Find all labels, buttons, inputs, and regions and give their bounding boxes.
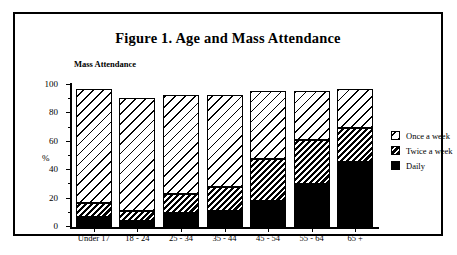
y-axis-minor-tick xyxy=(68,155,72,156)
x-axis-tick xyxy=(268,227,269,232)
bar-segment[interactable] xyxy=(337,162,373,227)
legend-item-label: Once a week xyxy=(406,131,450,141)
legend-item-label: Daily xyxy=(406,161,425,171)
y-axis-tick: 20 xyxy=(66,198,72,199)
bar-segment[interactable] xyxy=(250,91,286,159)
y-axis-tick-label: 40 xyxy=(49,164,58,174)
x-axis-tick-label: 25 - 34 xyxy=(169,233,193,243)
y-axis-tick-label: 80 xyxy=(49,107,58,117)
y-axis-minor-tick xyxy=(68,127,72,128)
bar-segment[interactable] xyxy=(250,159,286,202)
x-axis-tick xyxy=(137,227,138,232)
bar-segment[interactable] xyxy=(119,98,155,212)
bar-segment[interactable] xyxy=(250,201,286,227)
bar-segment[interactable] xyxy=(163,213,199,227)
bar-segment[interactable] xyxy=(294,91,330,141)
plot-subtitle: Mass Attendance xyxy=(74,59,136,69)
chart-legend: Once a weekTwice a weekDaily xyxy=(391,128,453,173)
y-axis-tick: 80 xyxy=(66,112,72,113)
once-a-week-swatch xyxy=(391,131,400,140)
bar-segment[interactable] xyxy=(76,217,112,227)
x-axis-tick-label: 55 - 64 xyxy=(300,233,324,243)
bar-segment[interactable] xyxy=(337,89,373,127)
y-axis-tick: 0 xyxy=(66,226,72,227)
y-axis-tick-label: 60 xyxy=(49,136,58,146)
y-axis-minor-tick xyxy=(68,98,72,99)
bar-segment[interactable] xyxy=(76,89,112,203)
page-title: Figure 1. Age and Mass Attendance xyxy=(15,30,441,47)
legend-item[interactable]: Twice a week xyxy=(391,143,453,158)
y-axis-tick-label: 100 xyxy=(45,79,59,89)
bar-segment[interactable] xyxy=(163,95,199,194)
y-axis-tick-label: 0 xyxy=(54,221,59,231)
bar-group[interactable] xyxy=(119,85,155,227)
x-axis-tick-label: Under 17 xyxy=(78,233,110,243)
bar-segment[interactable] xyxy=(337,128,373,162)
legend-item[interactable]: Daily xyxy=(391,158,453,173)
x-axis-tick xyxy=(94,227,95,232)
y-axis-minor-tick xyxy=(68,183,72,184)
figure-screenshot: Figure 1. Age and Mass Attendance Mass A… xyxy=(0,0,457,255)
x-axis-tick xyxy=(355,227,356,232)
daily-swatch xyxy=(391,161,400,170)
legend-item-label: Twice a week xyxy=(406,146,453,156)
bar-segment[interactable] xyxy=(207,211,243,227)
x-axis-tick xyxy=(181,227,182,232)
bar-segment[interactable] xyxy=(207,187,243,211)
legend-item[interactable]: Once a week xyxy=(391,128,453,143)
x-axis-tick-label: 35 - 44 xyxy=(212,233,236,243)
x-axis-tick xyxy=(225,227,226,232)
bar-segment[interactable] xyxy=(163,194,199,212)
figure-frame: Figure 1. Age and Mass Attendance Mass A… xyxy=(13,12,443,236)
y-axis-title: % xyxy=(42,153,50,163)
bar-group[interactable] xyxy=(337,85,373,227)
bar-segment[interactable] xyxy=(294,184,330,227)
bar-segment[interactable] xyxy=(207,95,243,187)
y-axis-tick: 100 xyxy=(66,84,72,85)
x-axis-tick xyxy=(312,227,313,232)
twice-a-week-swatch xyxy=(391,146,400,155)
x-axis-tick-label: 45 - 54 xyxy=(256,233,280,243)
plot-area: 020406080100 xyxy=(72,85,377,227)
y-axis-tick: 40 xyxy=(66,169,72,170)
bar-segment[interactable] xyxy=(294,140,330,184)
bar-group[interactable] xyxy=(76,85,112,227)
bar-segment[interactable] xyxy=(119,211,155,221)
bar-group[interactable] xyxy=(163,85,199,227)
bar-group[interactable] xyxy=(250,85,286,227)
x-axis-tick-label: 65 + xyxy=(347,233,362,243)
bar-segment[interactable] xyxy=(76,203,112,217)
x-axis-tick-label: 18 - 24 xyxy=(125,233,149,243)
bar-group[interactable] xyxy=(294,85,330,227)
y-axis-minor-tick xyxy=(68,212,72,213)
y-axis-tick: 60 xyxy=(66,141,72,142)
bar-group[interactable] xyxy=(207,85,243,227)
y-axis-tick-label: 20 xyxy=(49,193,58,203)
